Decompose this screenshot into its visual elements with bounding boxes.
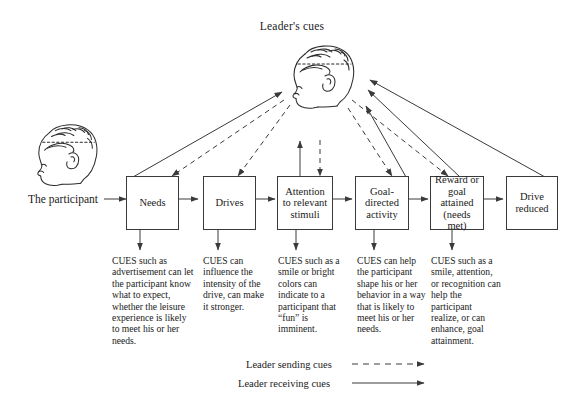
box-needs[interactable]: Needs [126,176,179,230]
cue-text-drives: CUES can influence the intensity of the … [203,255,265,312]
leader-head-profile-icon [285,40,363,112]
diagram-canvas: Leader's cues The participant Needs Driv… [0,0,584,403]
cue-text-needs: CUES such as advertisement can let the p… [112,255,194,346]
legend-sending-label: Leader sending cues [246,359,332,370]
cue-text-reward: CUES such as a smile, attention, or reco… [431,255,501,346]
box-attention[interactable]: Attentionto relevantstimuli [277,176,333,230]
box-drives-label: Drives [216,197,244,209]
arrow-sending-needs [172,100,284,176]
box-needs-label: Needs [139,197,165,209]
box-drive-reduced[interactable]: Drivereduced [506,176,558,230]
box-goal-label: Goal-directedactivity [365,186,399,221]
box-drives[interactable]: Drives [203,176,256,230]
cue-reward-text: CUES such as a smile, attention, or reco… [431,255,501,346]
cue-text-goal: CUES can help the participant shape his … [357,255,427,335]
cue-attention-text: CUES such as a smile or bright colors ca… [278,255,340,334]
box-attention-label: Attentionto relevantstimuli [283,186,328,221]
participant-head-profile-icon [30,118,106,190]
leaders-cues-title: Leader's cues [0,20,584,32]
box-drive-reduced-label: Drivereduced [515,191,548,214]
arrow-sending-drives [238,105,290,176]
arrow-receiving-needs [133,92,282,177]
legend-receiving-label: Leader receiving cues [238,378,330,389]
participant-label: The participant [28,193,98,205]
arrow-sending-goal [348,108,392,176]
cue-goal-text: CUES can help the participant shape his … [357,255,425,334]
arrow-receiving-goal [366,106,406,177]
cue-text-attention: CUES such as a smile or bright colors ca… [278,255,344,335]
cue-needs-text: CUES such as advertisement can let the p… [112,255,194,346]
box-goal-directed-activity[interactable]: Goal-directedactivity [355,176,409,230]
arrow-sending-reward [352,100,448,176]
arrow-receiving-reward [368,90,460,177]
cue-drives-text: CUES can influence the intensity of the … [203,255,264,312]
box-reward-goal-attained[interactable]: Reward orgoalattained(needs met) [430,176,484,230]
arrow-receiving-drivereduced [370,80,545,177]
box-reward-label: Reward orgoalattained(needs met) [433,174,481,232]
